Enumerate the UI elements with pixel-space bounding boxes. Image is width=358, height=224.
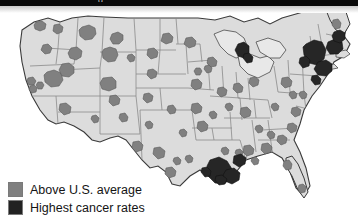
landmass <box>20 6 350 198</box>
cancer-rate-map-figure: g Above U.S. average Highest cancer rate… <box>0 0 358 224</box>
top-band-cropped-text: g <box>98 0 103 2</box>
top-black-band: g <box>0 0 358 6</box>
band-fade-gradient <box>0 6 358 13</box>
map-legend: Above U.S. average Highest cancer rates <box>8 181 145 217</box>
legend-label-highest-rates: Highest cancer rates <box>30 201 145 215</box>
legend-item-above-average: Above U.S. average <box>8 181 145 198</box>
legend-swatch-highest-rates <box>8 200 23 215</box>
legend-swatch-above-average <box>8 182 23 197</box>
legend-item-highest-rates: Highest cancer rates <box>8 199 145 216</box>
legend-label-above-average: Above U.S. average <box>30 183 142 197</box>
